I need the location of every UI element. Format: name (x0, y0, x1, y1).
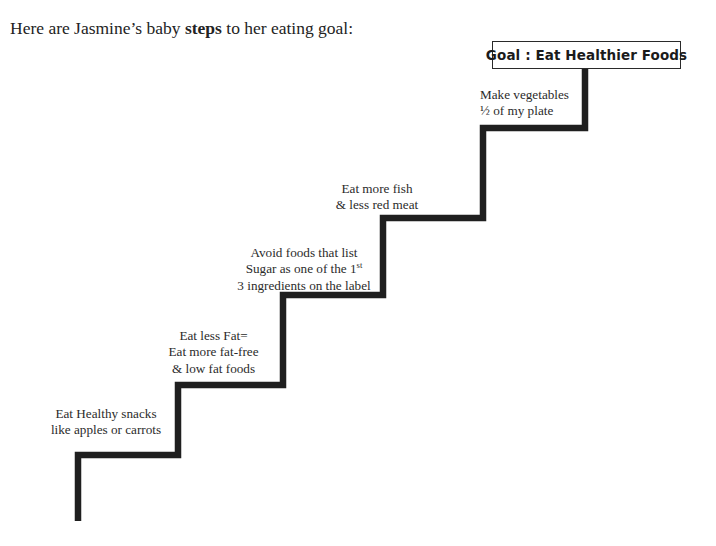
step-label-3-line-2: Sugar as one of the 1st (231, 261, 377, 277)
step-label-2-line-2: Eat more fat-free (150, 344, 277, 360)
step-label-4: Eat more fish & less red meat (313, 181, 441, 214)
step-label-5-line-2: ½ of my plate (480, 103, 590, 119)
step-label-1-line-1: Eat Healthy snacks (40, 406, 172, 422)
goal-box: Goal : Eat Healthier Foods (492, 41, 681, 69)
step-label-2-line-3: & low fat foods (150, 361, 277, 377)
step-label-5-line-1: Make vegetables (480, 87, 590, 103)
goal-box-label: Goal : Eat Healthier Foods (486, 47, 687, 63)
step-label-2: Eat less Fat= Eat more fat-free & low fa… (150, 328, 277, 377)
step-label-3-line-3: 3 ingredients on the label (231, 278, 377, 294)
step-label-2-line-1: Eat less Fat= (150, 328, 277, 344)
step-label-3-line-2-text: Sugar as one of the 1 (246, 261, 357, 276)
step-label-4-line-1: Eat more fish (313, 181, 441, 197)
step-label-1-line-2: like apples or carrots (40, 422, 172, 438)
step-label-5: Make vegetables ½ of my plate (480, 87, 590, 120)
step-label-3: Avoid foods that list Sugar as one of th… (231, 245, 377, 294)
step-label-3-line-1: Avoid foods that list (231, 245, 377, 261)
step-label-3-superscript: st (357, 260, 363, 270)
step-label-4-line-2: & less red meat (313, 197, 441, 213)
step-label-1: Eat Healthy snacks like apples or carrot… (40, 406, 172, 439)
staircase-path (78, 68, 585, 521)
